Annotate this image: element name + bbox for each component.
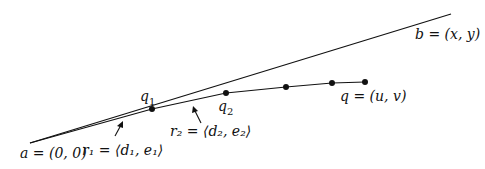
diagram: a = (0, 0) b = (x, y) q1 q2 q = (u, v) r…: [0, 0, 485, 169]
label-q1-sub: 1: [149, 96, 155, 107]
vertex-3: [283, 84, 289, 90]
label-q2: q2: [218, 99, 233, 117]
diagram-canvas: [0, 0, 485, 169]
vertex-4: [329, 80, 335, 86]
vertex-q2: [223, 90, 229, 96]
vertex-q: [362, 79, 368, 85]
label-q1-main: q: [140, 88, 149, 104]
label-b: b = (x, y): [415, 27, 480, 41]
label-q2-sub: 2: [227, 106, 233, 117]
arrow-r2-icon: [192, 106, 201, 123]
label-r1: r₁ = ⟨d₁, e₁⟩: [82, 143, 163, 157]
label-q: q = (u, v): [340, 89, 406, 103]
label-q1: q1: [140, 89, 155, 107]
label-q2-main: q: [218, 98, 227, 114]
label-a: a = (0, 0): [20, 146, 87, 160]
label-r2: r₂ = ⟨d₂, e₂⟩: [170, 124, 251, 138]
vertex-q1: [149, 106, 155, 112]
arrow-r1-icon: [115, 121, 123, 136]
